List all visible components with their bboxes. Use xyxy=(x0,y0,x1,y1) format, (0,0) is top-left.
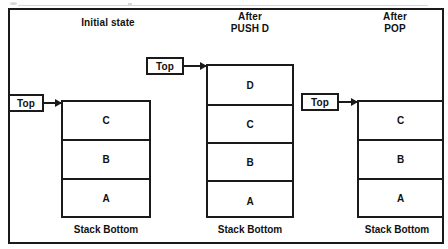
stack-cell: B xyxy=(359,141,442,180)
stack-cell: C xyxy=(208,106,292,144)
top-pointer-label: Top xyxy=(311,97,329,108)
top-pointer-initial: Top xyxy=(8,94,44,112)
stack-after-pop: C B A xyxy=(357,100,444,218)
column-caption-initial: Initial state xyxy=(58,17,158,29)
stack-bottom-label-after-push-d: Stack Bottom xyxy=(206,224,294,235)
top-pointer-label: Top xyxy=(17,98,35,109)
scan-artifact xyxy=(18,5,428,6)
stack-operation-figure: Initial state After PUSH D After POP Top… xyxy=(0,0,448,249)
top-pointer-arrow-after-push-d xyxy=(184,65,206,67)
top-pointer-after-push-d: Top xyxy=(146,57,184,75)
top-pointer-arrow-initial xyxy=(44,102,61,104)
top-pointer-arrow-after-pop xyxy=(339,101,357,103)
stack-cell: B xyxy=(208,144,292,182)
stack-after-push-d: D C B A xyxy=(206,64,294,218)
stack-bottom-label-initial: Stack Bottom xyxy=(61,224,151,235)
stack-cell: B xyxy=(63,141,149,180)
stack-cell: C xyxy=(359,102,442,141)
top-pointer-after-pop: Top xyxy=(301,93,339,111)
stack-bottom-label-after-pop: Stack Bottom xyxy=(352,224,442,235)
stack-cell: A xyxy=(208,182,292,220)
stack-cell: A xyxy=(63,180,149,216)
stack-initial: C B A xyxy=(61,100,151,218)
scan-artifact xyxy=(10,2,17,5)
stack-cell: C xyxy=(63,102,149,141)
column-caption-after-pop: After POP xyxy=(350,11,440,35)
stack-cell: D xyxy=(208,66,292,106)
top-pointer-label: Top xyxy=(156,61,174,72)
column-caption-after-push-d: After PUSH D xyxy=(200,11,300,35)
stack-cell: A xyxy=(359,180,442,216)
